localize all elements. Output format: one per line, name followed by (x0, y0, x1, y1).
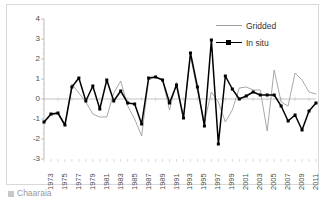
data-point-marker (154, 76, 157, 79)
x-axis-tick-label: 2011 (312, 174, 320, 190)
data-point-marker (294, 114, 297, 117)
x-axis-labels: 1973197519771979198119831985198719891991… (44, 162, 316, 192)
data-point-marker (84, 100, 87, 103)
data-point-marker (161, 79, 164, 82)
y-axis-tick-label: -2 (24, 135, 40, 143)
y-axis-tick-label: -3 (24, 155, 40, 163)
data-point-marker (43, 121, 46, 124)
data-point-marker (70, 86, 73, 89)
y-axis-tick-label: 0 (24, 95, 40, 103)
y-axis-tick-label: 3 (24, 35, 40, 43)
data-point-marker (210, 39, 213, 42)
data-point-marker (231, 88, 234, 91)
data-point-marker (77, 77, 80, 80)
data-point-marker (133, 103, 136, 106)
x-axis-tick-label: 1997 (214, 173, 222, 190)
data-point-marker (245, 95, 248, 98)
x-axis-tick-label: 2003 (256, 173, 264, 190)
data-point-marker (105, 79, 108, 82)
data-point-marker (126, 102, 129, 105)
data-point-marker (63, 124, 66, 127)
data-point-marker (308, 110, 311, 113)
data-point-marker (189, 52, 192, 55)
data-point-marker (301, 129, 304, 132)
legend-swatch-gridded-icon (216, 21, 242, 31)
x-axis-tick-label: 1987 (145, 173, 153, 190)
data-point-marker (56, 112, 59, 115)
y-axis-tick-label: 4 (24, 15, 40, 23)
legend-swatch-in-situ-icon (216, 38, 242, 48)
x-axis-tick-label: 1973 (47, 173, 55, 190)
data-point-marker (168, 102, 171, 105)
x-axis-tick-label: 1985 (131, 173, 139, 190)
data-point-marker (112, 100, 115, 103)
legend-item-in-situ: In situ (216, 37, 269, 49)
x-axis-tick-label: 1981 (103, 173, 111, 190)
x-axis-tick-label: 1979 (89, 173, 97, 190)
data-point-marker (182, 117, 185, 120)
chart-frame: 43210-1-2-3 1973197519771979198119831985… (6, 4, 319, 185)
x-axis-tick-label: 1999 (228, 173, 236, 190)
legend-label-gridded: Gridded (246, 21, 276, 31)
y-axis-labels: 43210-1-2-3 (21, 19, 40, 159)
x-axis-tick-label: 1991 (173, 173, 181, 190)
data-point-marker (119, 90, 122, 93)
figure-caption: Chaaraia (8, 189, 208, 200)
data-point-marker (175, 84, 178, 87)
legend-item-gridded: Gridded (216, 20, 276, 32)
x-axis-tick-label: 2007 (284, 173, 292, 190)
legend-label-in-situ: In situ (246, 38, 269, 48)
data-point-marker (266, 94, 269, 97)
data-point-marker (238, 98, 241, 101)
data-point-marker (203, 125, 206, 128)
chart-legend: Gridded In situ (216, 19, 312, 53)
data-point-marker (49, 113, 52, 116)
data-point-marker (252, 91, 255, 94)
data-point-marker (224, 75, 227, 78)
x-axis-tick-label: 1989 (159, 173, 167, 190)
data-point-marker (217, 143, 220, 146)
image-placeholder-icon (8, 191, 14, 197)
x-axis-tick-label: 1995 (200, 173, 208, 190)
x-axis-tick-label: 2009 (298, 173, 306, 190)
y-axis-tick-label: 1 (24, 75, 40, 83)
data-point-marker (287, 120, 290, 123)
data-point-marker (91, 85, 94, 88)
y-axis-tick-label: 2 (24, 55, 40, 63)
x-axis-tick-label: 2005 (270, 173, 278, 190)
x-axis-tick-label: 1977 (75, 173, 83, 190)
data-point-marker (259, 94, 262, 97)
x-axis-tick-label: 1975 (61, 173, 69, 190)
figure-caption-text: Chaaraia (17, 189, 52, 198)
x-axis-tick-label: 1993 (186, 173, 194, 190)
data-point-marker (196, 86, 199, 89)
data-point-marker (140, 123, 143, 126)
x-axis-tick-label: 1983 (117, 173, 125, 190)
series-line-in-situ (44, 40, 316, 144)
y-axis-tick-label: -1 (24, 115, 40, 123)
figure-root: 43210-1-2-3 1973197519771979198119831985… (0, 0, 327, 200)
data-point-marker (315, 102, 318, 105)
data-point-marker (98, 108, 101, 111)
data-point-marker (280, 105, 283, 108)
x-axis-tick-label: 2001 (242, 173, 250, 190)
data-point-marker (147, 77, 150, 80)
data-point-marker (273, 94, 276, 97)
